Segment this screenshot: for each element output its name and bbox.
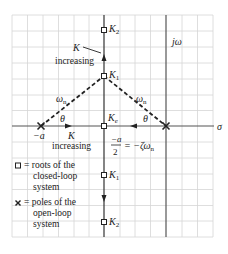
arrow-up-branch-icon bbox=[102, 54, 107, 61]
k2-upper-label: K2 bbox=[109, 24, 119, 37]
omega-n-right-label: ωn bbox=[136, 94, 147, 107]
legend-roots-line-2: closed-loop bbox=[24, 171, 77, 182]
closed-loop-root-k2-lower-icon bbox=[102, 220, 107, 225]
legend-cross-icon bbox=[16, 201, 21, 206]
omega-n-line-left bbox=[41, 76, 104, 126]
fraction-numerator: −a bbox=[111, 134, 122, 144]
fraction-denominator: 2 bbox=[113, 147, 118, 157]
closed-loop-root-k2-upper-icon bbox=[102, 28, 107, 33]
arrow-down-icon bbox=[102, 195, 107, 202]
legend-square-icon bbox=[16, 163, 21, 168]
k-increasing-bottom-text: increasing bbox=[52, 141, 91, 151]
fraction-rhs: = −ζωn bbox=[124, 141, 154, 154]
closed-loop-root-ke-icon bbox=[102, 124, 107, 129]
theta-right-label: θ bbox=[143, 114, 148, 124]
theta-left-label: θ bbox=[60, 114, 65, 124]
legend-poles-line-1: = poles of the bbox=[24, 197, 76, 208]
legend-poles-line-2: open-loop bbox=[24, 208, 76, 219]
k-increasing-top-text: increasing bbox=[55, 56, 94, 66]
k2-lower-label: K2 bbox=[109, 217, 119, 230]
k-increasing-bottom-k: K bbox=[68, 131, 75, 141]
closed-loop-root-k1-upper-icon bbox=[102, 74, 107, 79]
imag-axis-label: jω bbox=[172, 37, 182, 47]
ke-label: Ke bbox=[108, 113, 118, 126]
minus-a-label: −a bbox=[33, 131, 45, 141]
arrow-left-icon bbox=[130, 124, 137, 129]
pointer-line bbox=[83, 47, 101, 53]
legend-poles: = poles of the open-loop system bbox=[24, 197, 76, 230]
k-increasing-top-k: K bbox=[73, 43, 80, 53]
real-axis-label: σ bbox=[217, 122, 222, 132]
omega-n-left-label: ωn bbox=[56, 94, 67, 107]
legend-roots-line-1: = roots of the bbox=[24, 160, 77, 171]
k1-upper-label: K1 bbox=[109, 70, 119, 83]
legend-poles-line-3: system bbox=[24, 219, 76, 230]
k1-lower-label: K1 bbox=[109, 170, 119, 183]
arrow-right-icon bbox=[65, 124, 72, 129]
closed-loop-root-k1-lower-icon bbox=[102, 173, 107, 178]
legend-roots: = roots of the closed-loop system bbox=[24, 160, 77, 193]
legend-roots-line-3: system bbox=[24, 182, 77, 193]
